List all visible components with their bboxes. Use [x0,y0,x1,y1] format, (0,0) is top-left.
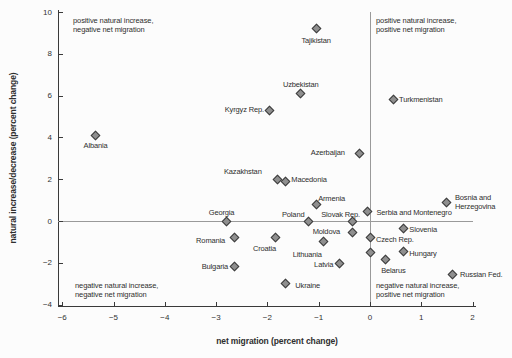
point-label-uzbekistan: Uzbekistan [283,81,319,90]
x-tick [114,302,115,306]
x-tick [370,302,371,306]
x-tick [267,302,268,306]
point-label-kazakhstan: Kazakhstan [224,168,262,177]
x-tick-label: 2 [458,313,488,322]
point-label-armenia: Armenia [318,195,345,204]
quadrant-annotation-top-left: positive natural increase,negative net m… [73,16,153,34]
point-label-macedonia: Macedonia [291,176,326,185]
data-point-kyrgyz-rep [265,105,275,115]
point-label-bulgaria: Bulgaria [202,263,228,272]
data-point-slovenia [398,223,408,233]
point-label-russian-fed: Russian Fed. [460,271,502,280]
point-label-georgia: Georgia [209,209,235,218]
point-label-slovak-rep: Slovak Rep. [321,211,360,220]
y-tick-label: 4 [26,133,52,142]
x-tick-label: −4 [150,313,180,322]
scatter-figure: natural increase/decrease (percent chang… [0,0,512,358]
x-tick [473,302,474,306]
x-tick-label: −2 [252,313,282,322]
point-label-czech-rep: Czech Rep. [376,236,414,245]
point-label-slovenia: Slovenia [409,226,437,235]
y-tick-label: −4 [26,300,52,309]
point-label-tajikistan: Tajikistan [301,37,330,46]
point-label-turkmenistan: Turkmenistan [399,96,442,105]
y-tick [59,137,63,138]
point-label-romania: Romania [196,237,225,246]
y-tick-label: 8 [26,49,52,58]
data-point-lithuania [319,237,329,247]
data-point-czech-rep [365,233,375,243]
data-point-albania [91,130,101,140]
point-label-croatia: Croatia [253,245,276,254]
y-tick [59,179,63,180]
data-point-bosnia-and-herzegovina [442,197,452,207]
point-label-latvia: Latvia [314,261,333,270]
x-tick-label: 1 [406,313,436,322]
data-point-russian-fed [447,269,457,279]
point-label-belarus: Belarus [381,267,405,276]
point-label-moldova: Moldova [313,228,340,237]
point-label-azerbaijan: Azerbaijan [311,149,345,158]
x-tick [421,302,422,306]
data-point-hungary [398,246,408,256]
zero-vertical-line [370,12,371,306]
y-tick-label: 10 [26,8,52,17]
x-axis-line [58,306,476,307]
data-point-unlabeled [365,247,375,257]
y-tick-label: 6 [26,91,52,100]
y-tick [59,221,63,222]
data-point-latvia [334,259,344,269]
point-label-bosnia-and-herzegovina: Bosnia andHerzegovina [455,194,495,211]
y-tick [59,54,63,55]
data-point-georgia [221,216,231,226]
data-point-belarus [380,255,390,265]
data-point-romania [229,233,239,243]
data-point-uzbekistan [296,89,306,99]
data-point-croatia [270,233,280,243]
point-label-lithuania: Lithuania [293,251,322,260]
x-tick [165,302,166,306]
zero-horizontal-line [58,221,473,222]
data-point-macedonia [280,176,290,186]
y-tick [59,305,63,306]
point-label-ukraine: Ukraine [295,282,320,291]
point-label-serbia-and-montenegro: Serbia and Montenegro [376,209,451,218]
point-label-hungary: Hungary [409,250,436,259]
data-point-moldova [347,228,357,238]
x-tick-label: −3 [201,313,231,322]
data-point-azerbaijan [355,148,365,158]
data-point-turkmenistan [388,95,398,105]
y-tick [59,12,63,13]
x-tick-label: −5 [99,313,129,322]
y-tick [59,96,63,97]
point-label-albania: Albania [84,142,108,151]
data-point-tajikistan [311,24,321,34]
data-point-ukraine [280,279,290,289]
x-tick-label: 0 [355,313,385,322]
data-point-poland [303,216,313,226]
y-tick-label: −2 [26,258,52,267]
y-tick-label: 2 [26,175,52,184]
x-tick [216,302,217,306]
plot-area: −6−5−4−3−2−10121086420−2−4positive natur… [0,0,512,358]
x-tick-label: −6 [47,313,77,322]
x-tick-label: −1 [304,313,334,322]
point-label-poland: Poland [282,211,304,220]
quadrant-annotation-bottom-right: negative natural increase,positive net m… [376,281,459,299]
quadrant-annotation-bottom-left: negative natural increase,negative net m… [75,281,158,299]
y-tick [59,263,63,264]
data-point-bulgaria [229,262,239,272]
x-tick [319,302,320,306]
quadrant-annotation-top-right: positive natural increase,positive net m… [376,16,456,34]
point-label-kyrgyz-rep: Kyrgyz Rep. [225,106,264,115]
y-tick-label: 0 [26,217,52,226]
